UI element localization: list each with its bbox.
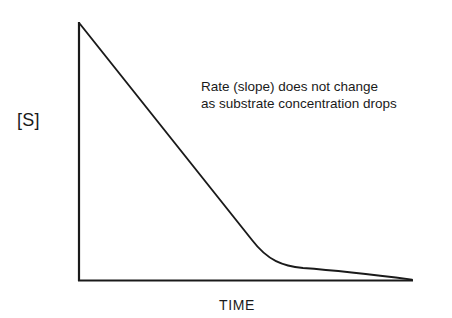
substrate-depletion-plot — [0, 0, 452, 318]
x-axis-label: TIME — [219, 297, 255, 313]
substrate-depletion-curve — [80, 24, 412, 280]
rate-annotation: Rate (slope) does not change as substrat… — [201, 78, 397, 112]
y-axis-label: [S] — [17, 110, 40, 130]
rate-annotation-line-1: Rate (slope) does not change — [201, 78, 397, 95]
figure-canvas: [S] TIME Rate (slope) does not change as… — [0, 0, 452, 318]
rate-annotation-line-2: as substrate concentration drops — [201, 95, 397, 112]
